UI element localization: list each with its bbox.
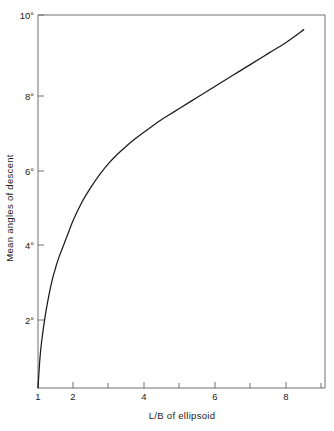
y-tick-label-4: 4° bbox=[25, 240, 34, 251]
y-axis-title: Mean angles of descent bbox=[4, 154, 15, 262]
y-tick-label-6: 6° bbox=[25, 166, 34, 177]
chart-figure: 10° 8° 6° 4° 2° 1 2 4 6 8 L/B of ellipso… bbox=[0, 0, 334, 431]
x-tick-label-2: 2 bbox=[70, 391, 75, 402]
chart-background bbox=[0, 0, 334, 431]
x-tick-label-8: 8 bbox=[283, 391, 288, 402]
x-tick-label-4: 4 bbox=[141, 391, 146, 402]
y-tick-label-10: 10° bbox=[20, 10, 35, 21]
y-tick-label-8: 8° bbox=[25, 91, 34, 102]
x-tick-label-6: 6 bbox=[212, 391, 217, 402]
x-axis-title: L/B of ellipsoid bbox=[149, 410, 216, 421]
x-tick-label-1: 1 bbox=[35, 391, 40, 402]
y-tick-label-2: 2° bbox=[25, 315, 34, 326]
